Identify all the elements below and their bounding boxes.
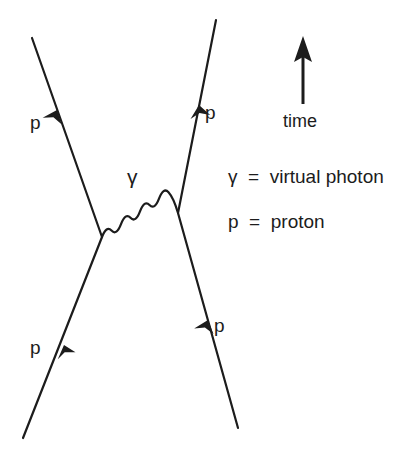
legend-proton: p = proton (228, 212, 325, 231)
label-outgoing-proton-right: p (205, 103, 216, 122)
virtual-photon-wave-icon (102, 191, 178, 237)
time-arrow-icon (294, 36, 312, 104)
feynman-diagram-canvas: p p p p γ time γ = virtual photon p = pr… (0, 0, 412, 464)
proton-line-upper-left (32, 38, 102, 237)
label-incoming-proton-right: p (214, 316, 225, 335)
feynman-diagram-svg (0, 0, 412, 464)
label-time-axis: time (283, 112, 317, 130)
outgoing-proton-left-line (32, 38, 102, 237)
label-outgoing-proton-left: p (30, 113, 41, 132)
incoming-proton-right-line (178, 213, 238, 428)
legend-virtual-photon: γ = virtual photon (228, 167, 384, 186)
label-incoming-proton-left: p (30, 338, 41, 357)
label-virtual-photon-gamma: γ (127, 166, 138, 187)
